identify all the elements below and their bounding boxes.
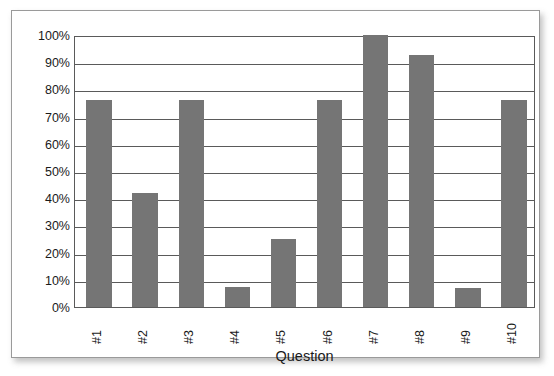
- x-axis-tick-label: #7: [367, 330, 380, 344]
- x-axis-tick-label: #8: [414, 330, 427, 344]
- x-axis-tick-label: #3: [183, 330, 196, 344]
- x-axis-tick-label: #4: [229, 330, 242, 344]
- x-axis-tick-label: #9: [460, 330, 473, 344]
- x-axis-labels: #1#2#3#4#5#6#7#8#9#10: [74, 310, 535, 346]
- x-axis-tick-label: #5: [275, 330, 288, 344]
- bar: [179, 100, 204, 307]
- x-axis-tick-label: #1: [91, 330, 104, 344]
- plot-area: [74, 36, 535, 308]
- bar: [225, 287, 250, 307]
- x-axis-tick-label: #6: [321, 330, 334, 344]
- y-axis-tick-label: 100%: [18, 30, 70, 43]
- bars-layer: [76, 37, 533, 307]
- y-axis-tick-label: 60%: [18, 139, 70, 152]
- bar: [455, 288, 480, 307]
- y-axis-tick-label: 50%: [18, 166, 70, 179]
- y-axis-tick-label: 40%: [18, 193, 70, 206]
- chart-screenshot: 100%90%80%70%60%50%40%30%20%10%0% #1#2#3…: [0, 0, 554, 376]
- y-axis-tick-label: 70%: [18, 111, 70, 124]
- y-axis-tick-label: 0%: [18, 302, 70, 315]
- bar: [132, 193, 157, 307]
- y-axis-tick-label: 10%: [18, 275, 70, 288]
- bar: [363, 35, 388, 307]
- x-axis-tick-label: #10: [506, 323, 519, 344]
- bar: [501, 100, 526, 307]
- y-axis-tick-label: 30%: [18, 220, 70, 233]
- bar: [271, 239, 296, 307]
- chart-frame: 100%90%80%70%60%50%40%30%20%10%0% #1#2#3…: [11, 10, 540, 358]
- bar: [317, 100, 342, 307]
- y-axis-tick-label: 20%: [18, 247, 70, 260]
- x-axis-tick-label: #2: [137, 330, 150, 344]
- y-axis-labels: 100%90%80%70%60%50%40%30%20%10%0%: [16, 36, 70, 308]
- bar: [409, 55, 434, 307]
- y-axis-tick-label: 90%: [18, 57, 70, 70]
- x-axis-title: Question: [74, 348, 535, 364]
- bar: [86, 100, 111, 307]
- y-axis-tick-label: 80%: [18, 84, 70, 97]
